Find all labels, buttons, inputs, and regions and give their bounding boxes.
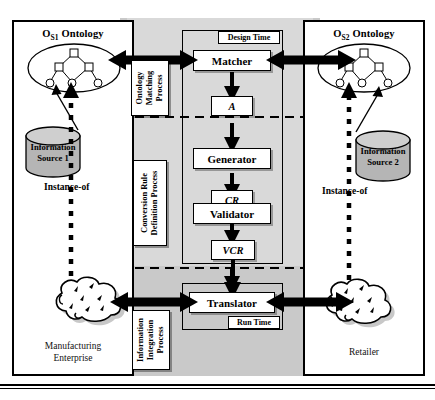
left-instance-of-label: Instance-of: [44, 182, 89, 192]
right-source-line2: Source 2: [350, 157, 416, 168]
left-ontology-title-o: O: [42, 28, 50, 39]
matching-right-double-arrow: [266, 48, 356, 72]
bottom-rule-thick: [0, 384, 435, 386]
right-instance-of-label: Instance-of: [322, 186, 367, 196]
left-footer-line1: Manufacturing: [14, 340, 132, 352]
bottom-rule-thin: [0, 388, 435, 389]
right-footer: Retailer: [305, 346, 423, 358]
right-ontology-title-rest: Ontology: [350, 28, 395, 39]
ontology-matching-line3: Process: [155, 71, 165, 105]
artifact-vcr-label: VCR: [222, 245, 243, 256]
conversion-rule-line1: Conversion Rule: [140, 171, 150, 236]
stage-translator-label: Translator: [207, 297, 257, 309]
right-source-line1: Information: [350, 146, 416, 157]
stage-validator[interactable]: Validator: [193, 203, 271, 224]
ontology-matching-line1: Ontology: [135, 71, 145, 105]
stage-matcher-label: Matcher: [212, 55, 252, 67]
left-ontology-title: OS1 Ontology: [14, 28, 132, 42]
right-footer-line1: Retailer: [305, 346, 423, 358]
left-footer: Manufacturing Enterprise: [14, 340, 132, 364]
process-label-conversion-rule-text: Conversion Rule Definition Process: [140, 171, 160, 236]
process-label-conversion-rule: Conversion Rule Definition Process: [133, 160, 167, 246]
right-instance-of-dotted-arrow: [340, 80, 358, 280]
left-ontology-title-rest: Ontology: [59, 28, 104, 39]
artifact-a[interactable]: A: [211, 96, 253, 116]
stage-generator[interactable]: Generator: [193, 148, 271, 169]
artifact-a-label: A: [228, 101, 235, 112]
right-ontology-title-o: O: [333, 28, 341, 39]
diagram-canvas: OS1 Ontology Manufacturing Enterprise In…: [0, 0, 435, 400]
left-footer-line2: Enterprise: [14, 352, 132, 364]
left-instance-of-dotted-arrow: [62, 80, 80, 276]
right-information-source-label: Information Source 2: [350, 146, 416, 168]
stage-translator[interactable]: Translator: [189, 292, 275, 313]
right-ontology-title: OS2 Ontology: [305, 28, 423, 42]
conversion-rule-line2: Definition Process: [150, 171, 160, 236]
stage-validator-label: Validator: [210, 208, 254, 220]
left-ontology-title-sub: S1: [51, 33, 59, 42]
stage-matcher[interactable]: Matcher: [193, 50, 271, 71]
process-label-information-integration-text: Information Integration Process: [136, 318, 166, 362]
information-integration-line1: Information: [136, 318, 146, 362]
information-integration-line3: Process: [156, 318, 166, 362]
process-label-ontology-matching: Ontology Matching Process: [131, 60, 169, 116]
stage-generator-label: Generator: [208, 153, 257, 165]
information-integration-line2: Integration: [146, 318, 156, 362]
process-label-ontology-matching-text: Ontology Matching Process: [135, 71, 165, 105]
ontology-matching-line2: Matching: [145, 71, 155, 105]
process-label-information-integration: Information Integration Process: [132, 310, 170, 370]
artifact-vcr[interactable]: VCR: [211, 240, 255, 260]
integration-right-double-arrow: [266, 290, 354, 314]
right-ontology-title-sub: S2: [342, 33, 350, 42]
